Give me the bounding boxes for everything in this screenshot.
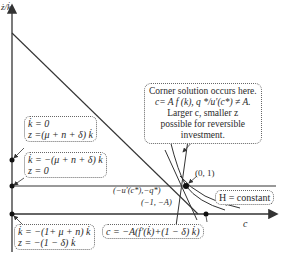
corner-callout: Corner solution occurs here. c= A f (k),… <box>144 83 262 144</box>
origin-point <box>10 212 15 217</box>
kdot-zero-point <box>10 158 15 163</box>
y-axis-label: ż/k̇ <box>1 2 11 13</box>
hamiltonian-box: H = constant <box>215 190 274 205</box>
corner-point-label: (0, 1) <box>195 168 215 179</box>
c-intercept-point <box>204 212 209 217</box>
slope-point-label: (−1, −A) <box>141 197 172 208</box>
x-axis-label: c <box>243 218 247 229</box>
kdot-zero-box: k̇ = 0 z =(μ + n + δ) k̇ <box>24 116 97 142</box>
z-zero-box: k̇ = −(μ + n + δ) k̇ z = 0 <box>24 152 107 178</box>
corner-point <box>183 183 189 189</box>
bottom-right-box: c = −A(f′(k̇)+(1 − δ) k̇) <box>102 224 204 239</box>
costate-point-label: (−u′(c*),−q*) <box>113 185 161 196</box>
bottom-left-box: k̇ = −(1+ μ + n) k̇ z = −(1 − δ) k̇ <box>14 224 95 250</box>
z-zero-point <box>10 184 15 189</box>
steep-line <box>165 150 197 220</box>
